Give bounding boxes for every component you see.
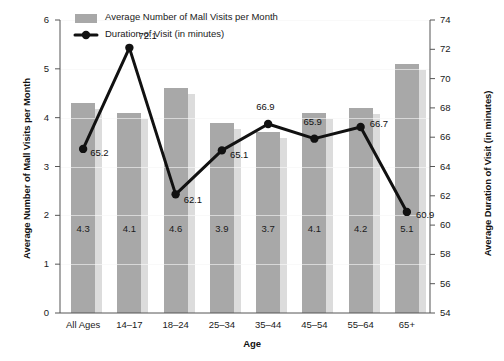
bar-value-label: 3.7 bbox=[248, 223, 288, 234]
bar-value-label: 4.1 bbox=[109, 223, 149, 234]
right-axis-tick-label: 56 bbox=[440, 278, 464, 289]
right-axis-tick-label: 70 bbox=[440, 73, 464, 84]
left-axis-tick-label: 1 bbox=[27, 258, 49, 269]
bar-value-label: 5.1 bbox=[387, 223, 427, 234]
line-point-label: 66.7 bbox=[370, 118, 389, 129]
line-point-label: 65.2 bbox=[90, 147, 109, 158]
right-axis-tick-label: 68 bbox=[440, 102, 464, 113]
left-axis-tick-label: 4 bbox=[27, 112, 49, 123]
chart-vector-layer bbox=[0, 0, 504, 361]
left-axis-tick-label: 5 bbox=[27, 63, 49, 74]
right-axis-tick-label: 72 bbox=[440, 43, 464, 54]
mall-visits-combo-chart: Average Number of Mall Visits per Month … bbox=[0, 0, 504, 361]
line-point-label: 62.1 bbox=[184, 194, 203, 205]
line-point-label: 66.9 bbox=[256, 101, 275, 112]
right-axis-tick-label: 64 bbox=[440, 161, 464, 172]
bar-value-label: 4.3 bbox=[63, 223, 103, 234]
left-axis-tick-label: 0 bbox=[27, 307, 49, 318]
legend-swatch-bars bbox=[75, 14, 97, 23]
legend-label-line: Duration of Visit (in minutes) bbox=[105, 28, 224, 39]
right-axis-tick-label: 74 bbox=[440, 14, 464, 25]
right-axis-tick-label: 58 bbox=[440, 248, 464, 259]
bar-value-label: 3.9 bbox=[202, 223, 242, 234]
right-axis-tick-label: 60 bbox=[440, 219, 464, 230]
bar-value-label: 4.1 bbox=[294, 223, 334, 234]
left-axis-tick-label: 6 bbox=[27, 14, 49, 25]
bar-value-label: 4.6 bbox=[156, 223, 196, 234]
right-axis-tick-label: 62 bbox=[440, 190, 464, 201]
bar-value-label: 4.2 bbox=[341, 223, 381, 234]
legend-label-bars: Average Number of Mall Visits per Month bbox=[105, 11, 278, 22]
left-axis-tick-label: 2 bbox=[27, 209, 49, 220]
left-axis-tick-label: 3 bbox=[27, 161, 49, 172]
x-axis-category-label: 65+ bbox=[377, 319, 437, 330]
line-point-label: 65.9 bbox=[303, 116, 322, 127]
line-point-label: 60.9 bbox=[416, 209, 435, 220]
right-axis-tick-label: 66 bbox=[440, 131, 464, 142]
right-axis-tick-label: 54 bbox=[440, 307, 464, 318]
line-point-label: 65.1 bbox=[230, 149, 249, 160]
